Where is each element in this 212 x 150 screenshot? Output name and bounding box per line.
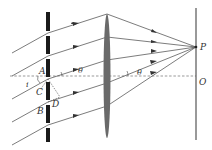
ray-arrows-right [150,29,157,75]
label-B: B [36,106,44,116]
label-theta-left: θ [78,66,83,75]
lens [104,14,111,138]
angle-theta-right-arc [127,71,128,76]
converging-rays [107,14,196,106]
label-O: O [199,77,207,87]
grating-lens-diagram: A B C D i θ θ P O [0,0,212,150]
label-P: P [199,42,207,52]
label-A: A [38,66,46,76]
label-C: C [36,87,43,97]
label-theta-right: θ [137,68,142,77]
label-D: D [51,99,59,109]
label-i: i [26,80,29,89]
angle-theta-left-arc [61,72,62,76]
diagram-canvas: A B C D i θ θ P O [0,0,212,150]
focal-point-P [195,46,198,49]
angle-i-arc [38,76,40,83]
grating [46,12,50,142]
